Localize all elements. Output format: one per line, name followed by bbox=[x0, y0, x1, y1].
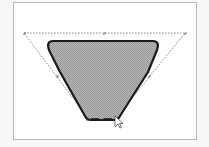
handle-right-middle[interactable] bbox=[148, 75, 150, 77]
trapezoid-shape[interactable] bbox=[48, 41, 158, 120]
drawing-stage[interactable] bbox=[0, 0, 209, 147]
